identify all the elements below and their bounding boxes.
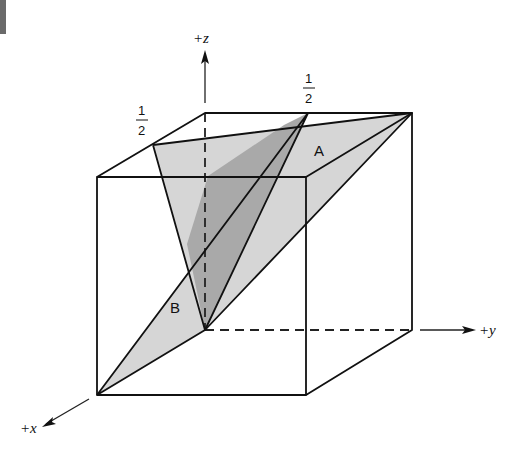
plane-a-label: A (314, 142, 324, 159)
unit-cube-diagram: +z +y +x A B 1 2 1 2 (0, 0, 527, 467)
fraction-numerator: 1 (305, 71, 312, 86)
x-axis (46, 399, 89, 424)
intercept-fraction-y: 1 2 (303, 71, 315, 106)
fraction-denominator: 2 (138, 123, 145, 138)
plane-b-label: B (170, 299, 180, 316)
z-axis-label: +z (193, 30, 209, 46)
fraction-numerator: 1 (138, 103, 145, 118)
x-axis-arrowhead (42, 417, 56, 427)
y-axis-label: +y (479, 322, 496, 338)
intercept-fraction-x: 1 2 (136, 103, 148, 138)
x-axis-label: +x (20, 420, 37, 436)
fraction-denominator: 2 (305, 91, 312, 106)
